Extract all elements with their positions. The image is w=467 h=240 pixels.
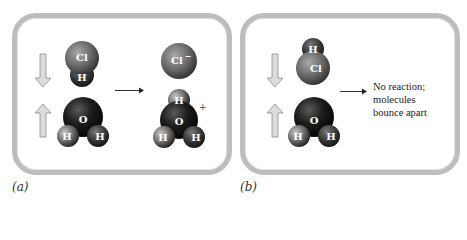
cl-label: Cl <box>76 52 88 63</box>
o-label: O <box>79 114 88 125</box>
note-line-2: molecules <box>373 93 427 106</box>
caption-b: (b) <box>240 180 257 194</box>
o-label: O <box>175 116 184 127</box>
minus-sign: − <box>185 51 192 61</box>
o-label: O <box>310 115 319 126</box>
no-reaction-note: No reaction; molecules bounce apart <box>373 80 427 119</box>
water-molecule: O H H <box>57 97 109 147</box>
panel-a: Cl H O H H Cl − H <box>35 41 207 148</box>
water-molecule: O H H <box>288 97 340 147</box>
h-label: H <box>308 44 317 55</box>
hydronium-ion: H O H H + <box>153 89 207 148</box>
reaction-arrow-icon <box>115 88 144 94</box>
h-label: H <box>95 131 104 142</box>
cl-label: Cl <box>310 63 322 74</box>
h-label: H <box>77 72 86 83</box>
cl-minus-label: Cl <box>171 55 183 66</box>
reaction-arrow-icon <box>340 89 367 95</box>
up-arrow-icon <box>267 104 283 137</box>
h-label: H <box>174 95 183 106</box>
h-label: H <box>158 132 167 143</box>
caption-a: (a) <box>12 180 29 194</box>
chloride-ion: Cl − <box>161 43 197 79</box>
note-line-1: No reaction; <box>373 80 427 93</box>
h-label: H <box>62 131 71 142</box>
hcl-molecule: H Cl <box>296 38 330 85</box>
note-line-3: bounce apart <box>373 106 427 119</box>
h-label: H <box>293 131 302 142</box>
hcl-molecule: Cl H <box>65 41 99 87</box>
up-arrow-icon <box>35 104 51 137</box>
down-arrow-icon <box>35 54 51 87</box>
h-label: H <box>326 131 335 142</box>
plus-charge: + <box>199 102 207 112</box>
h-label: H <box>191 132 200 143</box>
down-arrow-icon <box>267 54 283 87</box>
panel-b: H Cl O H H <box>267 38 367 147</box>
